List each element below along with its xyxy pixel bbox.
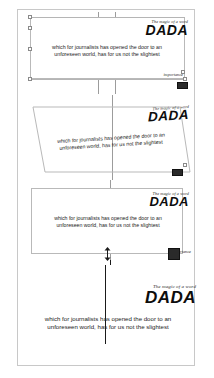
body-line-1: which for journalists has opened the doo… <box>33 215 183 222</box>
cursor-block <box>172 169 183 176</box>
headline-dada: DADA <box>145 289 196 306</box>
headline-dada: DADA <box>148 108 189 124</box>
frame-top-edge <box>30 17 185 18</box>
vertical-guide-dark[interactable] <box>105 265 106 344</box>
vertical-resize-cursor-icon <box>103 247 112 261</box>
handle-left-upper[interactable] <box>28 26 32 30</box>
trailing-word: importance <box>163 72 183 77</box>
cursor-block <box>177 82 188 89</box>
panel-4-final: The magic of a word DADA which for journ… <box>0 265 214 378</box>
panel-2-skewed: The magic of a word DADA which for journ… <box>0 95 214 180</box>
body-line-2: unforeseen world, has for us not the sli… <box>20 323 196 331</box>
panel-1-selected: The magic of a word DADA which for journ… <box>0 0 214 95</box>
body-line-2: unforeseen world, has for us not the sli… <box>33 222 183 229</box>
handle-skew-right[interactable] <box>183 163 187 167</box>
frame-bottom-edge <box>30 79 185 80</box>
handle-bottom-left[interactable] <box>28 77 32 81</box>
app-canvas: The magic of a word DADA which for journ… <box>0 0 214 378</box>
handle-bottom-right[interactable] <box>183 77 187 81</box>
cursor-block <box>168 248 180 260</box>
handle-top-left[interactable] <box>28 15 32 19</box>
body-line-2: unforeseen world, has for us not the sli… <box>32 51 182 58</box>
headline-dada: DADA <box>149 195 189 208</box>
panel-3-resizing: The magic of a word DADA which for journ… <box>0 180 214 265</box>
headline-dada: DADA <box>146 23 188 37</box>
